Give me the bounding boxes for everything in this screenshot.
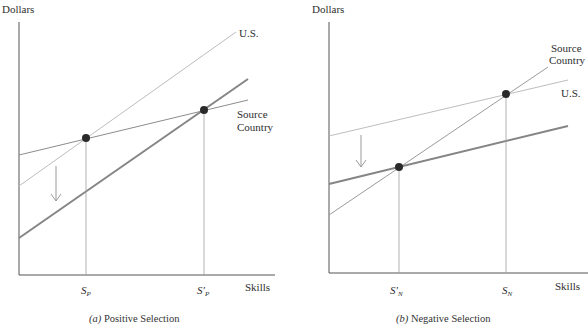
panel-b-tick-sn-prime: S′N [390, 284, 403, 300]
panel-a-sp-prime-point [200, 106, 208, 114]
panel-b-down-arrow-icon [356, 135, 366, 167]
panel-b-y-axis-label: Dollars [312, 3, 344, 15]
panel-a-graph [19, 22, 275, 275]
panel-b-us-line [329, 80, 568, 136]
panel-b-tick-sn: SN [502, 284, 512, 300]
selection-diagram [0, 0, 588, 329]
panel-a-shifted-us-line [19, 79, 248, 238]
panel-a-tick-sp: SP [81, 284, 91, 300]
panel-a-source-country-line [19, 100, 248, 155]
panel-b-caption: (b) Negative Selection [396, 313, 490, 324]
panel-b-us-label: U.S. [561, 87, 581, 99]
panel-a-us-label: U.S. [239, 27, 259, 39]
panel-b-source-country-line [329, 67, 548, 215]
panel-b-source-label-line1: Source [551, 42, 582, 54]
panel-b-sn-point [502, 90, 510, 98]
panel-b-sn-prime-point [395, 163, 403, 171]
panel-a-sp-point [82, 134, 90, 142]
panel-b-x-axis-label: Skills [555, 280, 580, 292]
panel-a-caption: (a) Positive Selection [89, 313, 179, 324]
panel-a-x-axis-label: Skills [245, 281, 270, 293]
panel-a-y-axis-label: Dollars [2, 3, 34, 15]
panel-a-source-label-line2: Country [237, 121, 273, 133]
panel-a-down-arrow-icon [51, 166, 61, 201]
panel-a-tick-sp-prime: S′P [197, 284, 209, 300]
panel-a-source-label-line1: Source [237, 108, 268, 120]
panel-b-source-label-line2: Country [549, 54, 585, 66]
